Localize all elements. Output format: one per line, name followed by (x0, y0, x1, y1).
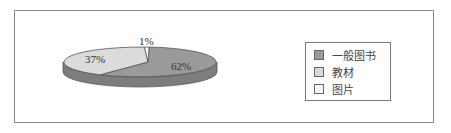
legend-item-textbooks: 教材 (314, 63, 390, 80)
label-pictures: 1% (139, 35, 154, 47)
label-textbooks: 37% (85, 53, 105, 65)
legend-item-pictures: 图片 (314, 80, 390, 97)
legend-item-general-books: 一般图书 (314, 46, 390, 63)
legend-label: 一般图书 (332, 47, 376, 63)
legend-swatch-textbooks (314, 67, 324, 77)
legend-label: 教材 (332, 64, 354, 80)
legend: 一般图书 教材 图片 (305, 42, 391, 101)
legend-swatch-pictures (314, 84, 324, 94)
label-general-books: 62% (171, 60, 191, 72)
legend-label: 图片 (332, 81, 354, 97)
legend-swatch-general-books (314, 50, 324, 60)
